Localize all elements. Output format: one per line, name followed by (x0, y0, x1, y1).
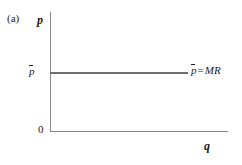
overbar-glyph (29, 65, 33, 66)
price-line-annotation: p=MR (191, 65, 221, 76)
y-tick-label-price-text: p (29, 65, 35, 77)
x-axis-line (50, 131, 228, 132)
panel-label: (a) (7, 13, 19, 24)
annotation-term: MR (205, 64, 221, 76)
x-axis-label: q (204, 140, 210, 152)
annotation-equals: = (197, 64, 205, 76)
overbar-glyph (191, 64, 195, 65)
y-tick-label-price: p (29, 66, 35, 77)
y-axis-label: p (37, 14, 43, 26)
annotation-symbol: p (191, 64, 197, 76)
price-marginal-revenue-line (50, 72, 188, 74)
origin-label: 0 (38, 124, 44, 135)
figure-panel-a: (a) p p 0 p=MR q (0, 0, 242, 165)
